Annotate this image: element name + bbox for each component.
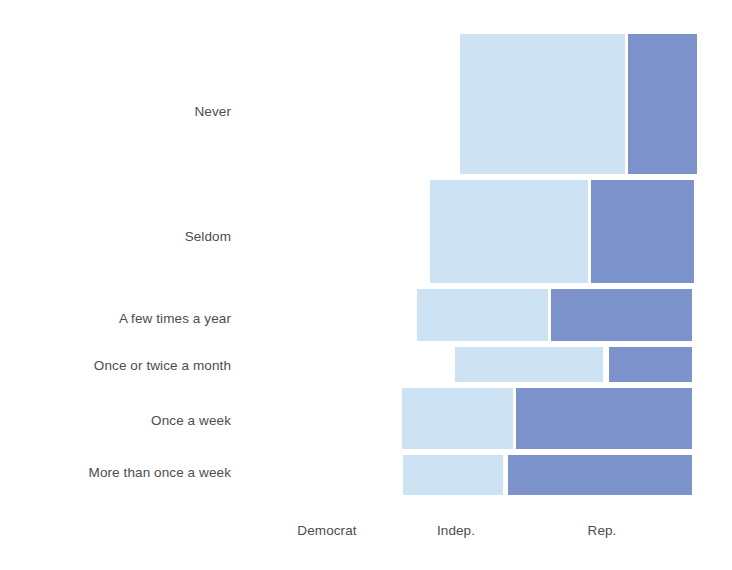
- mosaic-tile: [551, 289, 692, 341]
- mosaic-tile: [628, 34, 697, 174]
- row-axis-label: Once or twice a month: [94, 359, 231, 373]
- row-axis-label: Once a week: [151, 414, 231, 428]
- row-axis-label: More than once a week: [89, 466, 231, 480]
- row-axis-label: Never: [194, 105, 231, 119]
- mosaic-tile: [455, 347, 603, 382]
- mosaic-plot-figure: NeverSeldomA few times a yearOnce or twi…: [0, 0, 732, 570]
- plot-area: NeverSeldomA few times a yearOnce or twi…: [0, 0, 732, 570]
- mosaic-tile: [609, 347, 692, 382]
- mosaic-tile: [402, 388, 513, 449]
- x-axis-tick-label: Rep.: [502, 524, 702, 538]
- mosaic-tile: [508, 455, 692, 495]
- mosaic-tile: [403, 455, 503, 495]
- mosaic-tile: [417, 289, 548, 341]
- mosaic-tile: [591, 180, 694, 283]
- mosaic-tile: [460, 34, 625, 174]
- row-axis-label: A few times a year: [119, 312, 231, 326]
- mosaic-tile: [516, 388, 692, 449]
- row-axis-label: Seldom: [185, 230, 231, 244]
- mosaic-tile: [430, 180, 588, 283]
